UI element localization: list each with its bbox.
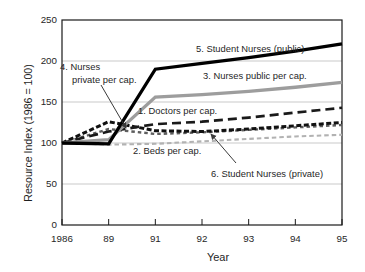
y-tick-label-0: 0 xyxy=(52,219,58,230)
x-tick-label-94: 94 xyxy=(290,233,301,244)
y-tick-label-50: 50 xyxy=(46,178,57,189)
y-axis-title: Resource Index (1986 = 100) xyxy=(22,64,34,202)
y-tick-label-100: 100 xyxy=(41,137,58,148)
y-tick-labels: 050100150200250 xyxy=(41,14,58,230)
x-tick-label-1986: 1986 xyxy=(51,233,73,244)
y-tick-label-200: 200 xyxy=(41,55,58,66)
x-tick-label-89: 89 xyxy=(103,233,114,244)
resource-index-line-chart: 1986899192939495 050100150200250 5. Stud… xyxy=(0,0,365,272)
x-tick-label-91: 91 xyxy=(150,233,161,244)
axis-ticks xyxy=(62,219,342,225)
series-label-doctors: 1. Doctors per cap. xyxy=(138,105,217,116)
x-tick-label-95: 95 xyxy=(337,233,348,244)
series-label-nurses-public: 3. Nurses public per cap. xyxy=(203,70,307,81)
series-lines xyxy=(62,44,342,145)
y-tick-label-250: 250 xyxy=(41,14,58,25)
x-tick-labels: 1986899192939495 xyxy=(51,233,348,244)
leader-line-student-nurses-private xyxy=(211,134,236,163)
y-tick-label-150: 150 xyxy=(41,96,58,107)
series-label-student-nurses-private: 6. Student Nurses (private) xyxy=(211,168,323,179)
series-label-nurses-private-line1: 4. Nurses xyxy=(60,61,100,72)
x-tick-label-93: 93 xyxy=(243,233,254,244)
series-label-beds: 2. Beds per cap. xyxy=(133,145,201,156)
series-label-student-nurses-public: 5. Student Nurses (public) xyxy=(196,43,304,54)
series-label-nurses-private-line2: private per cap. xyxy=(72,74,137,85)
x-axis-title: Year xyxy=(207,251,230,263)
x-tick-label-92: 92 xyxy=(197,233,208,244)
